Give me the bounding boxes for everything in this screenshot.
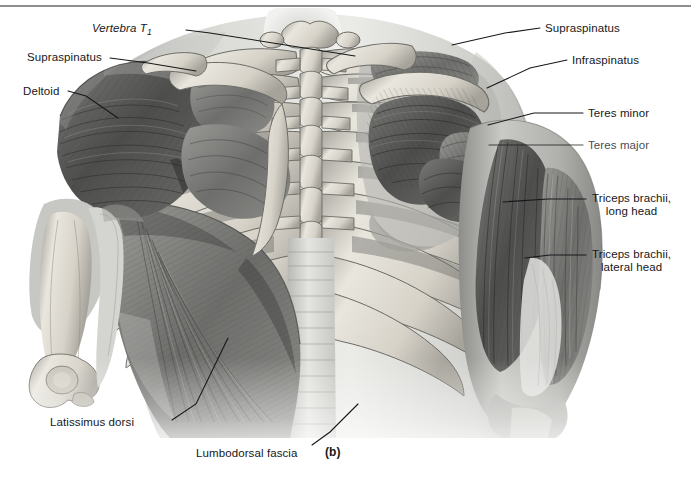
- label-teres-minor: Teres minor: [588, 107, 649, 120]
- label-vertebra-t1: Vertebra T1: [92, 22, 152, 39]
- label-triceps-brachii-long-head: Triceps brachii, long head: [592, 192, 671, 218]
- label-latissimus-dorsi: Latissimus dorsi: [50, 416, 134, 429]
- top-border-rule: [0, 5, 691, 7]
- label-infraspinatus: Infraspinatus: [572, 54, 639, 67]
- label-supraspinatus-left: Supraspinatus: [27, 51, 102, 64]
- label-supraspinatus-right: Supraspinatus: [545, 22, 620, 35]
- anatomical-figure: Vertebra T1 Supraspinatus Deltoid Supras…: [0, 0, 691, 489]
- anatomy-illustration: [0, 8, 691, 468]
- label-teres-major: Teres major: [588, 139, 649, 152]
- label-triceps-brachii-lateral-head: Triceps brachii, lateral head: [592, 248, 671, 274]
- label-lumbodorsal-fascia: Lumbodorsal fascia: [196, 447, 298, 460]
- label-deltoid: Deltoid: [23, 85, 60, 98]
- figure-designator: (b): [325, 446, 341, 459]
